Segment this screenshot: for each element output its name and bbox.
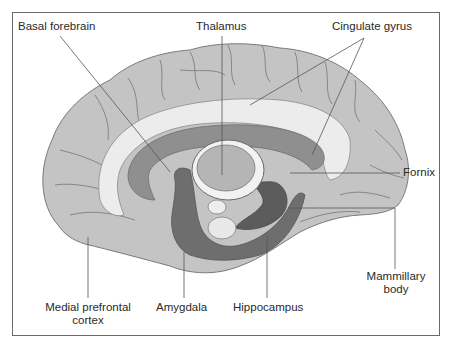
mammillary-body: [208, 200, 226, 214]
brain-illustration: [0, 0, 451, 351]
label-hippocampus: Hippocampus: [233, 301, 303, 314]
thalamus-region: [197, 145, 255, 191]
label-mammillary-body: Mammillary body: [358, 270, 434, 296]
label-thalamus: Thalamus: [196, 20, 247, 33]
label-basal-forebrain: Basal forebrain: [18, 20, 95, 33]
label-amygdala: Amygdala: [156, 301, 207, 314]
amygdala-highlight: [208, 217, 236, 239]
label-cingulate-gyrus: Cingulate gyrus: [332, 20, 412, 33]
label-fornix: Fornix: [403, 166, 435, 179]
label-medial-prefrontal-cortex: Medial prefrontal cortex: [38, 301, 138, 327]
